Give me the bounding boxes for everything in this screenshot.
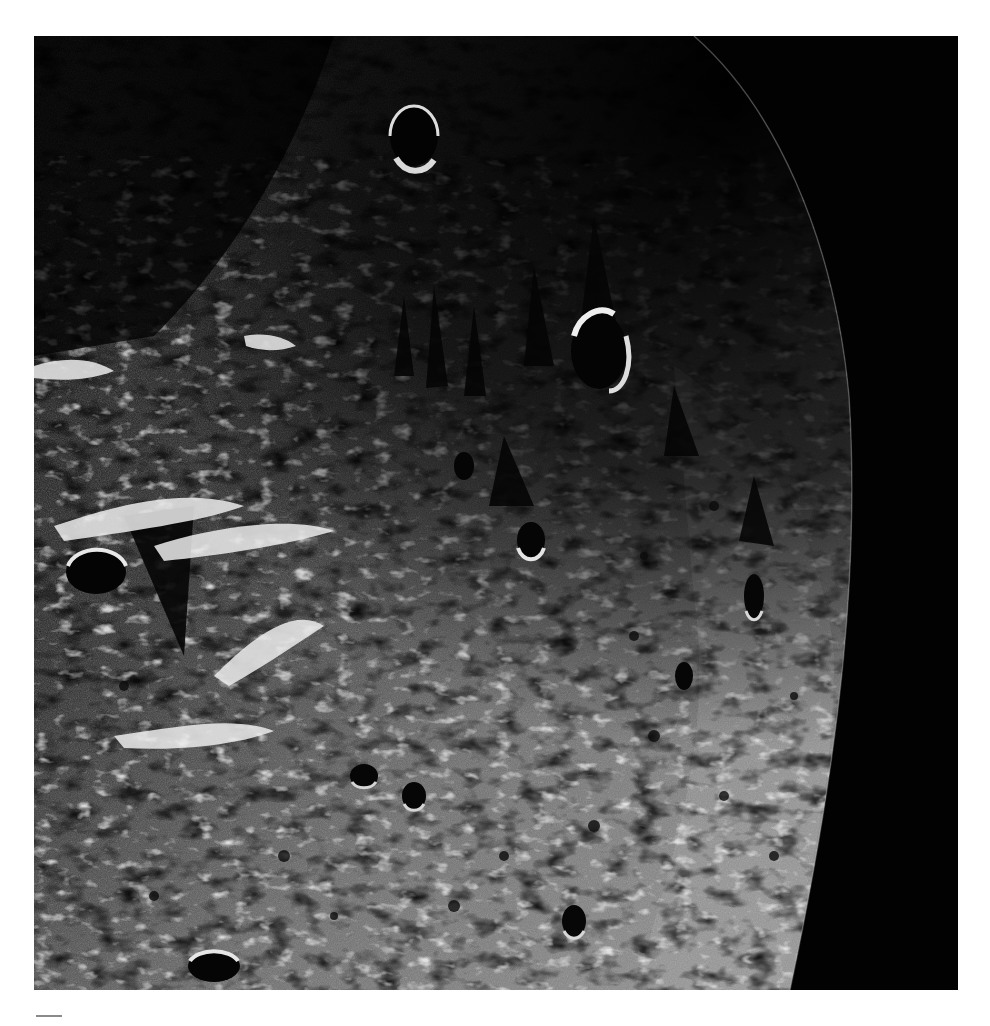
- crater: [744, 574, 764, 620]
- crater: [66, 550, 126, 594]
- crater: [562, 905, 586, 938]
- moon-surface-photo: [34, 36, 958, 990]
- moon-surface-illustration: [34, 36, 958, 990]
- crater: [188, 950, 240, 982]
- crater: [390, 106, 438, 171]
- crater: [517, 522, 545, 559]
- crater: [402, 782, 426, 810]
- crater: [675, 662, 693, 690]
- crater: [350, 764, 378, 788]
- crater: [454, 452, 474, 480]
- caption-rule: [36, 1015, 62, 1017]
